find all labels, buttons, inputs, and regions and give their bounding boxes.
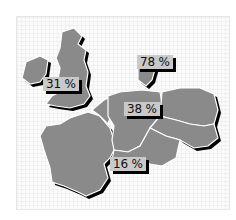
label-denmark-percent: 78 % — [137, 55, 173, 69]
europe-map — [0, 0, 236, 220]
label-germany-percent: 38 % — [124, 102, 160, 116]
label-switzerland-percent: 16 % — [110, 157, 146, 171]
label-uk-percent: 31 % — [43, 77, 79, 91]
country-france — [40, 112, 116, 196]
